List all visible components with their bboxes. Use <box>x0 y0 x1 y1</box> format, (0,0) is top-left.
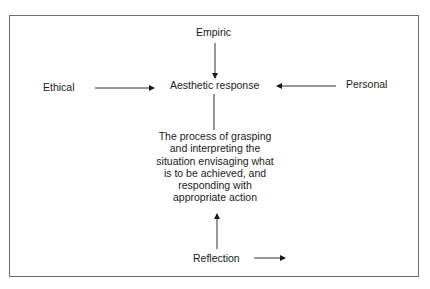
node-aesthetic-response: Aesthetic response <box>170 79 259 91</box>
process-line: is to be achieved, and <box>145 167 285 179</box>
node-empiric: Empiric <box>196 26 231 38</box>
node-ethical: Ethical <box>43 81 75 93</box>
process-line: The process of grasping <box>145 130 285 142</box>
node-process: The process of grasping and interpreting… <box>145 130 285 204</box>
node-personal: Personal <box>346 78 387 90</box>
node-reflection: Reflection <box>193 252 240 264</box>
process-line: appropriate action <box>145 191 285 203</box>
process-line: and interpreting the <box>145 142 285 154</box>
process-line: situation envisaging what <box>145 155 285 167</box>
process-line: responding with <box>145 179 285 191</box>
